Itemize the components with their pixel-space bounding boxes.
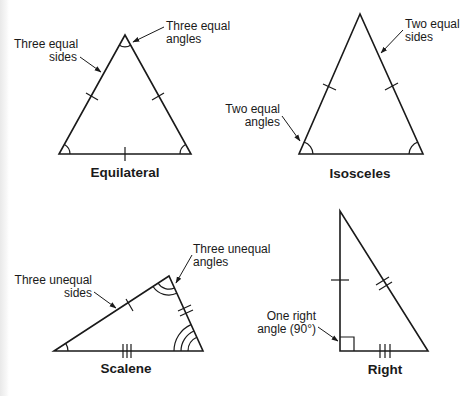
scalene-top-angle-arc-1	[153, 287, 177, 296]
isosceles-angles-arrow	[282, 116, 300, 141]
equilateral-angles-callout: Three equal angles	[166, 20, 230, 46]
isosceles-angles-callout: Two equal angles	[214, 103, 280, 129]
right-title: Right	[368, 362, 403, 377]
scalene-sides-callout: Three unequal sides	[6, 274, 92, 300]
equilateral-top-angle-arc	[119, 45, 131, 47]
equilateral-angles-arrow	[133, 27, 164, 42]
isosceles-right-angle-arc	[409, 142, 418, 154]
equilateral-left-angle-arc	[65, 145, 71, 155]
isosceles-sides-arrow	[381, 30, 403, 53]
equilateral-sides-arrow	[80, 57, 101, 72]
scalene-sides-arrow	[94, 292, 116, 308]
right-angle-square-marker	[340, 337, 354, 351]
scalene-angles-arrow	[176, 255, 192, 283]
isosceles-sides-callout: Two equal sides	[405, 18, 460, 44]
isosceles-triangle	[282, 14, 423, 154]
right-angle-arrow	[318, 327, 338, 341]
equilateral-right-angle-arc	[180, 145, 186, 155]
right-angle-callout: One right angle (90°)	[250, 310, 316, 336]
equilateral-title: Equilateral	[90, 165, 159, 180]
scalene-triangle	[54, 255, 203, 358]
scalene-left-angle-arc	[66, 343, 68, 351]
equilateral-triangle	[59, 27, 191, 161]
scalene-angles-callout: Three unequal angles	[193, 243, 270, 269]
equilateral-sides-callout: Three equal sides	[14, 38, 77, 64]
isosceles-left-angle-arc	[304, 142, 313, 154]
isosceles-title: Isosceles	[330, 166, 391, 181]
right-triangle	[318, 211, 428, 358]
scalene-title: Scalene	[100, 361, 151, 376]
scalene-right-angle-arc-3	[188, 337, 197, 351]
equilateral-outline	[59, 35, 191, 154]
right-outline	[340, 211, 428, 351]
